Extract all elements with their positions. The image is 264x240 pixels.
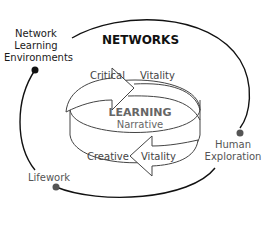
diagram-title: NETWORKS bbox=[102, 33, 179, 47]
human-exploration-node-dot bbox=[237, 130, 244, 137]
lifework-node-dot bbox=[53, 184, 60, 191]
label-line: Human bbox=[203, 139, 263, 151]
top-arrow-right-label: Vitality bbox=[140, 70, 175, 81]
center-heading: LEARNING bbox=[100, 106, 180, 119]
bottom-arrow-left-label: Creative bbox=[87, 151, 129, 162]
bottom-arrow-right-label: Vitality bbox=[141, 151, 176, 162]
center-subheading: Narrative bbox=[100, 119, 180, 131]
top-arrow-left-label: Critical bbox=[90, 70, 125, 81]
center-label: LEARNING Narrative bbox=[100, 106, 180, 131]
outer-arc-bottom bbox=[56, 168, 215, 197]
network-node-dot bbox=[32, 67, 39, 74]
label-line: Lifework bbox=[24, 172, 74, 184]
network-learning-environments-label: Network Learning Environments bbox=[4, 28, 68, 64]
label-line: Learning bbox=[4, 40, 68, 52]
human-exploration-label: Human Exploration bbox=[203, 139, 263, 163]
label-line: Network bbox=[4, 28, 68, 40]
label-line: Exploration bbox=[203, 151, 263, 163]
outer-arc-left bbox=[20, 70, 35, 170]
label-line: Environments bbox=[4, 52, 68, 64]
lifework-label: Lifework bbox=[24, 172, 74, 184]
